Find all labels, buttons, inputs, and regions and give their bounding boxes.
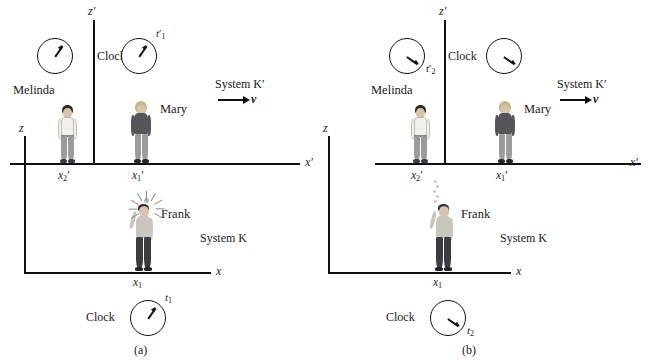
leg-left	[61, 136, 67, 160]
leg-left	[499, 134, 505, 160]
velocity-arrow-b	[560, 99, 586, 101]
clock-hand	[147, 308, 156, 320]
zprime-axis-label-b: z′	[439, 5, 446, 17]
leg-right	[68, 136, 74, 160]
melinda-clock-a	[37, 38, 73, 74]
mary-clock-b	[486, 38, 522, 74]
z-axis-line-b	[328, 136, 330, 273]
mary-name-label-b: Mary	[524, 103, 551, 116]
melinda-coord-label-a: x2′	[58, 170, 70, 184]
frank-clock-time-label-a: t1	[165, 292, 172, 305]
xprime-axis-label-b: x′	[630, 156, 638, 168]
person-melinda-b	[409, 105, 431, 164]
system-k-label-b: System K	[500, 232, 547, 244]
panel-caption-b: (b)	[462, 344, 476, 356]
zprime-axis-label-a: z′	[88, 5, 95, 17]
melinda-name-label-b: Melinda	[371, 84, 413, 97]
xprime-axis-label-a: x′	[305, 156, 313, 168]
velocity-arrow-a	[218, 99, 244, 101]
x-axis-line-a	[24, 272, 211, 274]
clock-hand	[504, 56, 516, 65]
clock-label-unprimed-a: Clock	[86, 311, 115, 323]
person-mary-a	[130, 101, 152, 164]
torso	[498, 113, 512, 134]
shoe-right	[68, 159, 75, 163]
frank-clock-a	[130, 300, 166, 336]
frank-coord-label-a: x1	[133, 277, 142, 291]
clock-hand	[138, 46, 147, 58]
velocity-label-a: v	[251, 93, 256, 105]
melinda-coord-label-b: x2′	[411, 170, 423, 184]
flashbulb-burst-a	[135, 190, 157, 210]
clock-label-primed-b: Clock	[448, 50, 477, 62]
xprime-axis-line-a	[10, 163, 300, 165]
frank-coord-label-b: x1	[433, 277, 442, 291]
shoe-right	[142, 159, 149, 163]
melinda-name-label-a: Melinda	[13, 84, 55, 97]
leg-right	[144, 237, 151, 268]
x-axis-label-b: x	[516, 265, 521, 277]
torso	[134, 113, 148, 134]
leg-right	[506, 134, 512, 160]
melinda-clock-b	[389, 38, 425, 74]
zprime-axis-line-b	[444, 20, 446, 164]
flashbulb-smoke-b	[432, 178, 440, 204]
leg-right	[444, 237, 451, 268]
shoe-right	[506, 159, 513, 163]
arm-left	[495, 115, 499, 136]
person-melinda-a	[56, 105, 78, 164]
z-axis-label-a: z	[19, 122, 24, 134]
clock-hand	[448, 318, 460, 327]
mary-coord-label-b: x1′	[496, 170, 508, 184]
shoe-left	[134, 159, 141, 163]
z-axis-line-a	[24, 136, 26, 273]
zprime-axis-line-a	[93, 20, 95, 164]
person-mary-b	[494, 101, 516, 164]
shoe-left	[498, 159, 505, 163]
system-k-label-a: System K	[200, 232, 247, 244]
shoe-left	[135, 267, 143, 271]
frank-name-label-a: Frank	[161, 208, 190, 221]
panel-caption-a: (a)	[134, 344, 147, 356]
leg-left	[414, 136, 420, 160]
shoe-right	[421, 159, 428, 163]
shoe-left	[413, 159, 420, 163]
leg-left	[436, 237, 443, 268]
panel-b: z′ x′ z x t′2 Clock System K′ v Melinda …	[327, 0, 653, 363]
arm-right	[147, 115, 151, 136]
mary-name-label-a: Mary	[160, 103, 187, 116]
shoe-right	[144, 267, 152, 271]
person-frank-b	[430, 202, 454, 272]
clock-hand	[54, 46, 63, 58]
leg-right	[421, 136, 427, 160]
shoe-right	[444, 267, 452, 271]
system-kprime-label-b: System K′	[557, 78, 607, 90]
frank-clock-b	[430, 300, 466, 336]
melinda-clock-time-label-b: t′2	[426, 63, 435, 76]
velocity-label-b: v	[593, 93, 598, 105]
clock-label-unprimed-b: Clock	[386, 311, 415, 323]
x-axis-line-b	[328, 272, 511, 274]
panel-a: z′ x′ z x Clock t′1 System K′ v Melinda …	[0, 0, 326, 363]
frank-name-label-b: Frank	[461, 208, 490, 221]
system-kprime-label-a: System K′	[215, 78, 265, 90]
mary-clock-time-label-a: t′1	[156, 28, 165, 41]
person-frank-a	[130, 202, 154, 272]
leg-right	[142, 134, 148, 160]
shoe-left	[435, 267, 443, 271]
mary-coord-label-a: x1′	[132, 170, 144, 184]
leg-left	[136, 237, 143, 268]
x-axis-label-a: x	[216, 265, 221, 277]
frank-clock-time-label-b: t2	[467, 325, 474, 338]
shoe-left	[60, 159, 67, 163]
leg-left	[135, 134, 141, 160]
mary-clock-a	[121, 38, 157, 74]
arm-right	[511, 115, 515, 136]
clock-hand	[407, 56, 419, 65]
z-axis-label-b: z	[323, 122, 328, 134]
arm-left	[131, 115, 135, 136]
